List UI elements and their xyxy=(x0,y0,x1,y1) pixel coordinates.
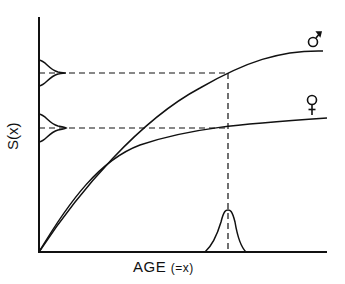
male-curve xyxy=(39,51,323,252)
survival-diagram xyxy=(0,0,345,284)
x-axis-label: AGE (=x) xyxy=(133,258,194,275)
age-x-distribution xyxy=(205,210,246,252)
x-axis-title: AGE xyxy=(133,258,166,275)
y-axis-label: S(x) xyxy=(4,123,21,151)
female-symbol-icon xyxy=(308,96,317,116)
male-symbol-icon xyxy=(309,32,322,47)
female-curve xyxy=(39,118,327,252)
x-axis-note: (=x) xyxy=(171,261,194,275)
